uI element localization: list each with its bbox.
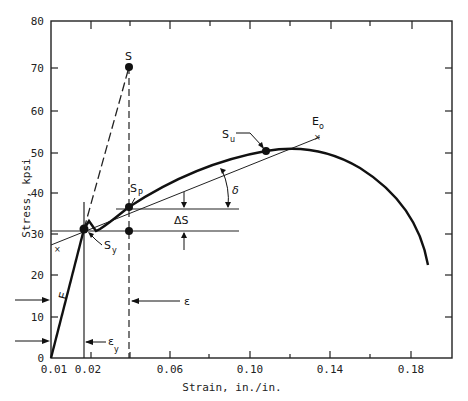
left-arrowhead-upper-icon <box>42 297 50 303</box>
y-tick-70: 70 <box>31 62 44 75</box>
y-tick-60: 60 <box>31 105 44 118</box>
label-s: S <box>125 50 132 63</box>
eps-y-arrowhead-icon <box>85 339 93 345</box>
x-tick-0.10: 0.10 <box>237 363 264 376</box>
y-tick-80: 80 <box>31 15 44 28</box>
plot-frame <box>51 21 452 358</box>
x-tick-0.01: 0.01 <box>41 363 68 376</box>
point-offset <box>125 227 133 235</box>
label-delta-s: ΔS <box>174 214 189 227</box>
x-mark-e0: × <box>314 133 321 142</box>
y-tick-20: 20 <box>31 269 44 282</box>
y-tick-50: 50 <box>31 147 44 160</box>
point-s <box>125 63 133 71</box>
eps-arrowhead-icon <box>131 298 139 304</box>
point-sy <box>80 225 89 234</box>
secant-line-to-s <box>84 67 129 229</box>
label-e0: E <box>312 115 319 128</box>
label-sy-sub: y <box>112 246 117 255</box>
label-sy: S <box>104 239 111 252</box>
label-delta: δ <box>232 184 239 197</box>
y-axis-title: Stress, kpsi <box>20 158 33 237</box>
label-su: S <box>222 128 229 141</box>
x-tick-0.18: 0.18 <box>398 363 425 376</box>
x-tick-labels: 0.01 0.02 0.06 0.10 0.14 0.18 <box>41 363 425 376</box>
x-mark-left: × <box>54 245 61 254</box>
left-arrowhead-lower-icon <box>42 338 50 344</box>
x-axis-title: Strain, in./in. <box>182 381 281 394</box>
su-leader <box>236 133 262 146</box>
tangent-line-e0 <box>51 137 320 245</box>
delta-arc-arrowhead-bottom-icon <box>225 202 231 208</box>
label-e0-sub: o <box>319 122 324 131</box>
stress-strain-chart: 0 10 20 30 40 50 60 70 80 0.01 0.02 0.06… <box>0 0 468 401</box>
label-sp: S <box>130 182 137 195</box>
x-tick-0.14: 0.14 <box>317 363 344 376</box>
x-tick-0.02: 0.02 <box>75 363 102 376</box>
y-tick-10: 10 <box>31 311 44 324</box>
label-su-sub: u <box>230 135 235 144</box>
x-tick-0.06: 0.06 <box>157 363 184 376</box>
label-eps-y-sub: y <box>114 345 119 354</box>
label-sp-sub: P <box>138 189 143 198</box>
label-eps: ε <box>184 295 190 308</box>
delta-s-arrowhead-top-icon <box>181 202 187 208</box>
stress-strain-curve <box>84 149 428 265</box>
delta-s-arrowhead-bottom-icon <box>181 232 187 238</box>
